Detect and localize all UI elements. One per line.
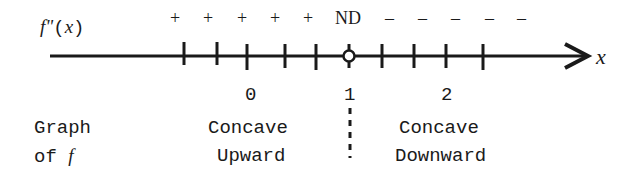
sign-nd: ND (335, 8, 361, 29)
fpp-func: f" (40, 16, 53, 37)
region-upward-line1: Concave (208, 117, 288, 139)
tick-label-0: 0 (245, 84, 256, 106)
tick-label-2: 2 (441, 84, 452, 106)
graph-label-line2: of f (34, 145, 74, 168)
sign-9: – (485, 8, 494, 29)
sign-10: – (517, 8, 526, 29)
sign-8: – (451, 8, 460, 29)
tick-label-1: 1 (344, 84, 355, 106)
number-line-graphic (0, 0, 635, 180)
region-downward-line2: Downward (395, 145, 486, 167)
sign-1: + (203, 8, 213, 29)
open-circle-icon (344, 51, 355, 62)
sign-2: + (237, 8, 247, 29)
sign-4: + (303, 8, 313, 29)
fpp-label: f"(x) (40, 16, 85, 39)
sign-6: – (385, 8, 394, 29)
graph-label-line1: Graph (34, 117, 91, 139)
axis-label-x: x (596, 44, 606, 70)
region-downward-line1: Concave (399, 117, 479, 139)
sign-7: – (418, 8, 427, 29)
fpp-arg: (x) (53, 17, 84, 39)
sign-0: + (170, 8, 180, 29)
sign-3: + (270, 8, 280, 29)
region-upward-line2: Upward (217, 145, 285, 167)
